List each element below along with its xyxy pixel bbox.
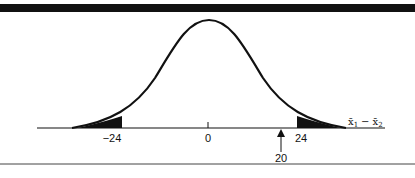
- bell-curve: [72, 20, 346, 128]
- axis-variable-label: x̄1−x̄2: [348, 116, 383, 129]
- tick-label-0: 0: [205, 132, 211, 144]
- tick-label-24: 24: [295, 132, 307, 144]
- normal-curve-diagram: −24 0 24 20 x̄1−x̄2: [0, 0, 415, 178]
- observed-value-label: 20: [275, 152, 287, 164]
- top-rule: [0, 4, 415, 12]
- arrow-up-icon: [277, 129, 285, 137]
- tick-label-neg24: −24: [103, 132, 122, 144]
